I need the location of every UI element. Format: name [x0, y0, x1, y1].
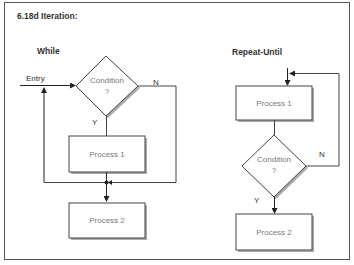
- repeat-condition-line1: Condition: [242, 154, 306, 165]
- while-entry-label: Entry: [26, 74, 45, 83]
- while-yes-label: Y: [92, 118, 97, 127]
- repeat-yes-label: Y: [254, 196, 259, 205]
- while-condition-text: Condition ?: [76, 75, 138, 97]
- repeat-process2-label: Process 2: [236, 227, 312, 238]
- flowchart-canvas: [0, 0, 354, 265]
- while-process1-label: Process 1: [69, 149, 145, 160]
- repeat-heading: Repeat-Until: [232, 47, 282, 57]
- repeat-no-label: N: [319, 150, 325, 159]
- repeat-condition-line2: ?: [242, 165, 306, 176]
- while-heading: While: [37, 46, 60, 56]
- while-process2-label: Process 2: [69, 215, 145, 226]
- while-no-label: N: [153, 78, 159, 87]
- while-junction-arrow: [108, 180, 112, 185]
- while-junction-dot: [105, 181, 109, 185]
- while-condition-line2: ?: [76, 86, 138, 97]
- while-condition-line1: Condition: [76, 75, 138, 86]
- repeat-condition-text: Condition ?: [242, 154, 306, 176]
- repeat-process1-label: Process 1: [236, 98, 312, 109]
